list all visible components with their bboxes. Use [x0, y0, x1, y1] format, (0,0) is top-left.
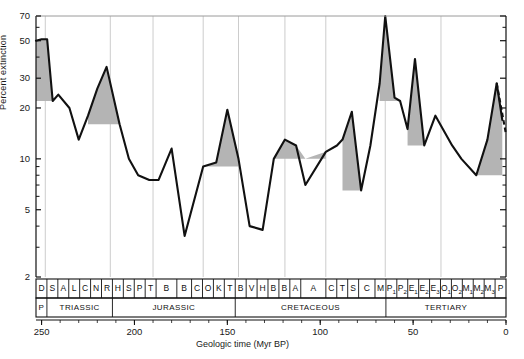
- x-axis-title: Geologic time (Myr BP): [196, 339, 289, 349]
- y-tick-label: 10: [8, 153, 30, 164]
- x-tick-label: 0: [491, 326, 521, 337]
- y-tick-label: 30: [8, 72, 30, 83]
- x-tick-label: 50: [398, 326, 428, 337]
- y-tick-label: 5: [8, 204, 30, 215]
- period-label: TERTIARY: [386, 303, 506, 312]
- period-label: TRIASSIC: [47, 303, 113, 312]
- y-tick-label: 50: [8, 35, 30, 46]
- extinction-intensity-chart: Percent extinction Geologic time (Myr BP…: [0, 0, 524, 359]
- period-label: CRETACEOUS: [235, 303, 386, 312]
- stage-label: P: [487, 283, 515, 293]
- x-tick-label: 200: [119, 326, 149, 337]
- y-tick-label: 20: [8, 102, 30, 113]
- x-tick-label: 250: [27, 326, 57, 337]
- y-axis-title: Percent extinction: [0, 0, 8, 110]
- x-tick-label: 150: [212, 326, 242, 337]
- period-label: JURASSIC: [112, 303, 235, 312]
- y-tick-label: 70: [8, 10, 30, 21]
- y-tick-label: 2: [8, 271, 30, 282]
- period-label: P: [36, 303, 47, 312]
- x-tick-label: 100: [305, 326, 335, 337]
